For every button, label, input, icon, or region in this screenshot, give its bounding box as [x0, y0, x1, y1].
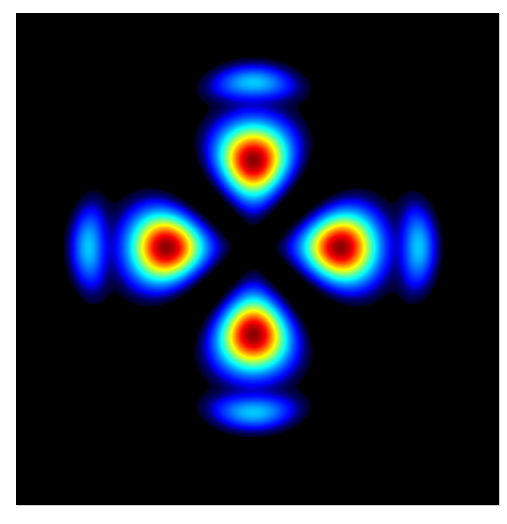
mode-intensity-image	[16, 13, 499, 505]
intensity-pattern-canvas	[16, 13, 499, 505]
